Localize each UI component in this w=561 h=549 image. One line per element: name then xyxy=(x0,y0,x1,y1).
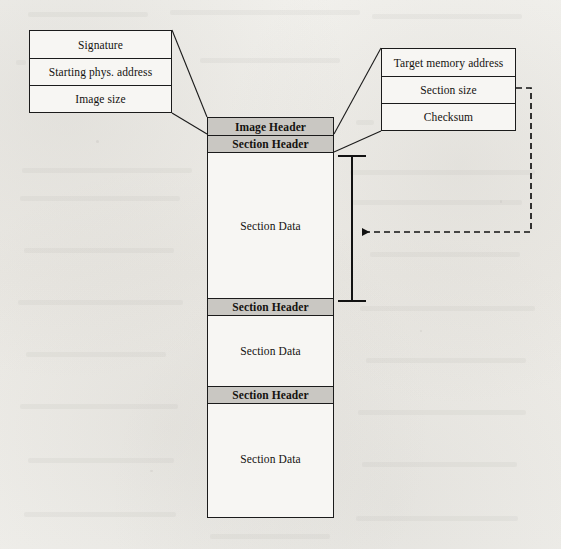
stack-row-image-header: Image Header xyxy=(208,118,333,135)
image-header-fields-box: Signature Starting phys. address Image s… xyxy=(29,30,172,113)
field-image-size: Image size xyxy=(30,85,171,111)
field-checksum: Checksum xyxy=(382,103,515,129)
stack-row-section-header-2: Section Header xyxy=(208,298,333,315)
stack-row-section-data-2: Section Data xyxy=(208,315,333,386)
leader-section-header xyxy=(334,48,381,152)
field-section-size: Section size xyxy=(382,76,515,103)
stack-row-section-header-3: Section Header xyxy=(208,386,333,403)
field-starting-phys-address: Starting phys. address xyxy=(30,58,171,85)
section-header-fields-box: Target memory address Section size Check… xyxy=(381,48,516,131)
firmware-image-stack: Image Header Section Header Section Data… xyxy=(207,117,334,518)
field-target-memory-address: Target memory address xyxy=(382,49,515,76)
leader-image-header xyxy=(172,30,207,134)
stack-row-section-header-1: Section Header xyxy=(208,135,333,152)
field-signature: Signature xyxy=(30,31,171,58)
stack-row-section-data-3: Section Data xyxy=(208,403,333,513)
diagram-canvas: Signature Starting phys. address Image s… xyxy=(0,0,561,549)
section-size-bracket xyxy=(338,156,366,301)
stack-row-section-data-1: Section Data xyxy=(208,152,333,298)
